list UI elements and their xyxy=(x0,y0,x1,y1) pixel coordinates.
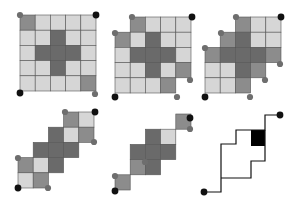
corner-dot-gray xyxy=(92,91,98,97)
corner-dot-gray xyxy=(142,159,148,165)
grid-cell-light xyxy=(176,17,191,32)
corner-dot-black xyxy=(202,94,209,101)
corner-dot-gray xyxy=(112,173,118,179)
grid-cell-light xyxy=(161,17,176,32)
grid-cell-dark xyxy=(251,47,266,62)
corner-dot-black xyxy=(277,112,284,119)
corner-dot-gray xyxy=(233,14,239,20)
grid-cell-mid xyxy=(81,76,96,91)
grid-cell-light xyxy=(266,32,281,47)
grid-cell-light xyxy=(81,30,96,45)
grid-cell-light xyxy=(66,15,81,30)
grid-cell-light xyxy=(176,32,191,47)
grid-cell-light xyxy=(50,15,65,30)
grid-cell-mid xyxy=(20,15,35,30)
grid-cell-light xyxy=(115,63,130,78)
grid-cell-light xyxy=(115,47,130,62)
grid-cell-dark xyxy=(145,129,160,144)
grid-cell-light xyxy=(251,32,266,47)
grid-cell-light xyxy=(35,15,50,30)
grid-cell-light xyxy=(176,47,191,62)
grid-cell-light xyxy=(220,78,235,93)
grid-cell-light xyxy=(66,61,81,76)
corner-dot-black xyxy=(93,12,100,19)
grid-cell-light xyxy=(50,76,65,91)
grid-cell-light xyxy=(35,61,50,76)
grid-cell-light xyxy=(161,129,176,144)
grid-cell-light xyxy=(130,78,145,93)
corner-dot-black xyxy=(201,189,208,196)
grid-cell-dark xyxy=(130,47,145,62)
grid-cell-light xyxy=(35,30,50,45)
corner-dot-gray xyxy=(62,109,68,115)
grid-cell-dark xyxy=(145,63,160,78)
grid-cell-light xyxy=(130,32,145,47)
corner-dot-gray xyxy=(202,45,208,51)
grid-panel-3 xyxy=(202,14,285,101)
grid-cell-light xyxy=(66,76,81,91)
corner-dot-black xyxy=(112,188,119,195)
grid-cell-dark xyxy=(145,47,160,62)
grid-cell-light xyxy=(20,30,35,45)
corner-dot-black xyxy=(187,115,194,122)
corner-dot-black xyxy=(278,14,285,21)
grid-cell-dark xyxy=(145,32,160,47)
grid-cell-dark xyxy=(235,47,250,62)
grid-panel-1 xyxy=(17,12,100,98)
grid-panel-4 xyxy=(15,109,99,192)
grid-cell-light xyxy=(79,112,94,127)
grid-cell-dark xyxy=(48,127,63,142)
grid-cell-light xyxy=(20,61,35,76)
grid-cell-dark xyxy=(235,32,250,47)
outer-staircase-line xyxy=(204,115,280,192)
grid-cell-dark xyxy=(66,45,81,60)
corner-dot-gray xyxy=(112,30,118,36)
corner-dot-gray xyxy=(277,61,283,67)
grid-cell-light xyxy=(205,63,220,78)
grid-cell-mid xyxy=(235,78,250,93)
grid-cell-dark xyxy=(48,142,63,157)
grid-cell-mid xyxy=(266,47,281,62)
corner-dot-gray xyxy=(247,94,253,100)
corner-dot-gray xyxy=(91,139,97,145)
grid-cell-mid xyxy=(251,63,266,78)
grid-cell-dark xyxy=(161,47,176,62)
grid-cell-dark xyxy=(48,158,63,173)
grid-cell-dark xyxy=(145,144,160,159)
corner-dot-black xyxy=(15,185,22,192)
corner-dot-gray xyxy=(45,185,51,191)
corner-dot-black xyxy=(92,109,99,116)
grid-cell-dark xyxy=(35,45,50,60)
corner-dot-gray xyxy=(187,77,193,83)
grid-cell-dark xyxy=(64,142,79,157)
grid-cell-dark xyxy=(220,47,235,62)
staircase-path-panel xyxy=(201,112,284,196)
corner-dot-black xyxy=(112,94,119,101)
grid-cell-light xyxy=(20,76,35,91)
corner-dot-gray xyxy=(15,155,21,161)
grid-panel-2 xyxy=(112,14,196,101)
corner-dot-gray xyxy=(262,77,268,83)
corner-dot-gray xyxy=(17,12,23,18)
corner-dot-gray xyxy=(218,30,224,36)
grid-cell-dark xyxy=(161,144,176,159)
grid-cell-light xyxy=(205,78,220,93)
grid-cell-mid xyxy=(161,78,176,93)
corner-dot-gray xyxy=(187,126,193,132)
grid-cell-light xyxy=(81,61,96,76)
corner-dot-black xyxy=(189,14,196,21)
grid-cell-dark xyxy=(50,45,65,60)
grid-cell-light xyxy=(35,76,50,91)
grid-cell-light xyxy=(130,63,145,78)
corner-dot-black xyxy=(17,90,24,97)
diagram-canvas xyxy=(0,0,297,205)
corner-dot-gray xyxy=(129,14,135,20)
grid-cell-light xyxy=(220,63,235,78)
grid-cell-light xyxy=(161,32,176,47)
grid-cell-light xyxy=(33,158,48,173)
grid-cell-light xyxy=(251,17,266,32)
grid-cell-light xyxy=(20,45,35,60)
grid-cell-mid xyxy=(176,63,191,78)
grid-cell-dark xyxy=(50,61,65,76)
grid-cell-dark xyxy=(235,63,250,78)
